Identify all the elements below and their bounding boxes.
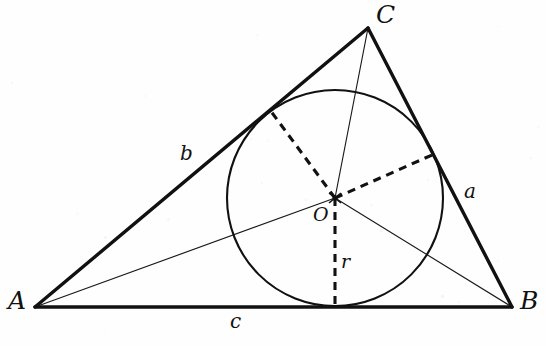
radius-to-side-a [335, 155, 432, 198]
side-label-c: c [230, 311, 241, 331]
vertex-label-a: A [8, 288, 26, 313]
side-label-a: a [464, 181, 476, 201]
angle-bisector-from-a [35, 198, 335, 307]
triangle-side-b [35, 28, 368, 307]
radius-label-r: r [341, 252, 350, 271]
side-label-b: b [180, 143, 193, 163]
incenter-label-o: O [313, 205, 329, 224]
radius-to-side-b [270, 110, 335, 198]
vertex-label-c: C [376, 2, 395, 27]
vertex-label-b: B [520, 288, 538, 313]
triangle-side-a [368, 28, 512, 307]
diagram-canvas [0, 0, 546, 346]
geometry-figure: A B C a b c O r [0, 0, 546, 346]
